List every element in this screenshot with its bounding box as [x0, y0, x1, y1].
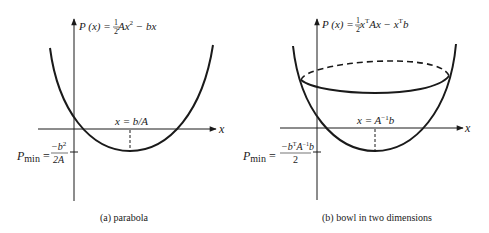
function-label: P (x) = — [321, 18, 354, 31]
x-axis-label: x — [464, 121, 471, 135]
function-rhs: xTAx − xTb — [359, 17, 409, 30]
caption-a: (a) parabola — [100, 212, 149, 224]
pmin-denominator: 2A — [53, 154, 65, 165]
panel-a-parabola: x P (x) = 1 2 Ax2 − bx x = b/A Pmin = −b… — [16, 18, 225, 224]
pmin-label: Pmin = — [242, 149, 276, 164]
caption-b: (b) bowl in two dimensions — [322, 212, 432, 224]
panel-b-bowl: x P (x) = 1 2 xTAx − xTb x = A−1b Pmin =… — [242, 16, 471, 224]
pmin-numerator: −b2 — [51, 140, 67, 152]
x-axis-label: x — [218, 122, 225, 136]
function-rhs: Ax2 − bx — [117, 19, 157, 32]
bowl-rim-back — [301, 61, 449, 80]
bowl-rim-front — [301, 76, 449, 93]
pmin-label: Pmin = — [16, 149, 50, 164]
figure: x P (x) = 1 2 Ax2 − bx x = b/A Pmin = −b… — [0, 0, 489, 233]
min-location-label: x = A−1b — [356, 114, 395, 126]
min-location-label: x = b/A — [114, 115, 148, 127]
function-label: P (x) = — [78, 20, 111, 33]
pmin-denominator: 2 — [293, 154, 298, 165]
pmin-numerator: −bTA−1b — [281, 141, 314, 152]
